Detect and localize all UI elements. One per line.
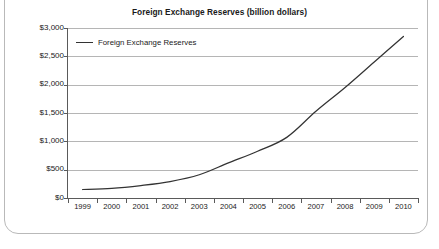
- legend-line-swatch: [76, 42, 93, 43]
- x-axis-tick-mark: [389, 199, 390, 203]
- x-axis-tick-mark: [301, 199, 302, 203]
- x-axis-tick-mark: [185, 199, 186, 203]
- x-axis-tick-label: 2004: [214, 202, 243, 211]
- x-axis-tick-label: 2009: [360, 202, 389, 211]
- x-axis-tick-label: 2000: [97, 202, 126, 211]
- chart-legend: Foreign Exchange Reserves: [76, 38, 196, 47]
- x-axis-tick-label: 2008: [331, 202, 360, 211]
- x-axis-tick-label: 2010: [389, 202, 418, 211]
- legend-label-foreign-exchange-reserves: Foreign Exchange Reserves: [98, 38, 196, 47]
- y-axis-tick-mark: [64, 141, 68, 142]
- x-axis-tick-mark: [331, 199, 332, 203]
- x-axis-tick-label: 2005: [243, 202, 272, 211]
- x-axis-tick-mark: [214, 199, 215, 203]
- x-axis-tick-mark: [156, 199, 157, 203]
- y-axis-tick-mark: [64, 85, 68, 86]
- y-axis-tick-mark: [64, 170, 68, 171]
- x-axis-tick-label: 2007: [301, 202, 330, 211]
- y-axis-tick-mark: [64, 56, 68, 57]
- x-axis-tick-mark: [243, 199, 244, 203]
- y-axis-tick-mark: [64, 28, 68, 29]
- x-axis-tick-mark: [126, 199, 127, 203]
- x-axis-tick-label: 2003: [185, 202, 214, 211]
- x-axis-tick-label: 2006: [272, 202, 301, 211]
- series-line-foreign-exchange-reserves: [83, 37, 404, 190]
- x-axis-tick-mark: [360, 199, 361, 203]
- x-axis-tick-label: 1999: [68, 202, 97, 211]
- series-layer: [0, 0, 439, 249]
- x-axis-tick-mark: [97, 199, 98, 203]
- x-axis-tick-mark: [418, 199, 419, 203]
- x-axis-tick-mark: [272, 199, 273, 203]
- x-axis-tick-mark: [68, 199, 69, 203]
- x-axis-tick-label: 2001: [126, 202, 155, 211]
- y-axis-tick-mark: [64, 113, 68, 114]
- x-axis-tick-label: 2002: [156, 202, 185, 211]
- line-chart: Foreign Exchange Reserves (billion dolla…: [0, 0, 439, 249]
